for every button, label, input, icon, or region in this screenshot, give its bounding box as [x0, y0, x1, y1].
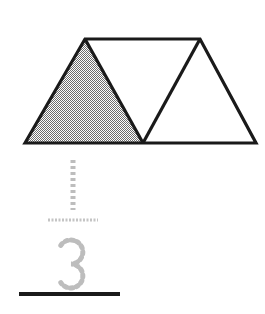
worksheet-page: Fraction Shading And Tracing Worksheet A…: [0, 0, 265, 314]
worksheet-figure-svg: [0, 0, 265, 314]
dotted-numeral-icon-denominator: [61, 240, 83, 288]
trace-denominator-stroke: [61, 240, 83, 288]
trapezoid-figure: [25, 39, 256, 143]
